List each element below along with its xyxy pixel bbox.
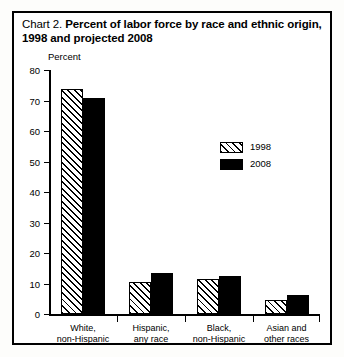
legend-label-2008: 2008 [250,158,271,169]
y-tick-mark [44,192,50,193]
category-label-black-non-hispanic: Black, non-Hispanic [185,323,253,344]
chart-legend: 1998 2008 [220,141,312,175]
legend-item-2008: 2008 [220,158,312,175]
category-label-line2: any race [117,334,185,345]
bar-1998-black-non-hispanic [197,279,219,314]
y-axis-unit-label: Percent [48,51,81,62]
chart-frame: Chart 2. Percent of labor force by race … [12,11,332,345]
bar-2008-asian-and-other-races [287,295,309,314]
y-tick-mark [44,223,50,224]
legend-item-1998: 1998 [220,141,312,158]
category-label-line2: non-Hispanic [49,334,117,345]
y-tick-mark [44,284,50,285]
chart-figure: Chart 2. Percent of labor force by race … [0,0,344,357]
y-tick-mark [44,70,50,71]
legend-label-1998: 1998 [250,141,271,152]
category-label-asian-and-other-races: Asian and other races [253,323,320,344]
y-tick-mark [44,162,50,163]
category-label-hispanic-any-race: Hispanic, any race [117,323,185,344]
plot-area: Percent 0 10 20 30 40 50 60 70 80 [14,13,330,343]
solid-black-swatch-icon [220,159,243,170]
category-separator-tick [185,315,186,322]
x-axis-end-cap [319,315,320,322]
y-tick-label: 0 [14,309,40,320]
y-tick-label: 10 [14,279,40,290]
category-label-white-non-hispanic: White, non-Hispanic [49,323,117,344]
category-label-line1: Asian and [253,323,320,334]
y-tick-label: 50 [14,157,40,168]
bar-1998-hispanic-any-race [129,282,151,314]
y-tick-mark [44,314,50,315]
category-separator-tick [253,315,254,322]
y-tick-mark [44,253,50,254]
y-tick-label: 80 [14,65,40,76]
bar-2008-hispanic-any-race [151,273,173,314]
y-tick-label: 60 [14,126,40,137]
y-tick-label: 70 [14,96,40,107]
category-label-line2: non-Hispanic [185,334,253,345]
category-label-line2: other races [253,334,320,345]
bar-1998-asian-and-other-races [265,300,287,314]
bar-2008-white-non-hispanic [83,98,105,314]
category-label-line1: White, [49,323,117,334]
category-label-line1: Black, [185,323,253,334]
y-tick-mark [44,101,50,102]
hatched-diagonal-swatch-icon [220,142,243,153]
y-tick-label: 40 [14,187,40,198]
category-label-line1: Hispanic, [117,323,185,334]
y-tick-mark [44,131,50,132]
bar-2008-black-non-hispanic [219,276,241,314]
y-tick-label: 30 [14,218,40,229]
category-separator-tick [117,315,118,322]
y-tick-label: 20 [14,248,40,259]
bar-1998-white-non-hispanic [61,89,83,314]
